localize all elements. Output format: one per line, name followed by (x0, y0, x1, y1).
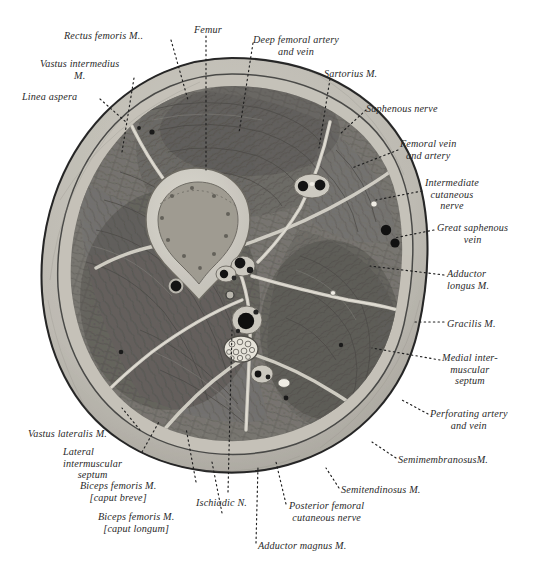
label-line: Vastus lateralis M. (28, 428, 107, 440)
label-line: Biceps femoris M. (80, 480, 156, 492)
label-emphasis: Rectus (64, 30, 95, 41)
label-line: and vein (253, 46, 339, 58)
label-line: Semitendinosus M. (341, 484, 421, 496)
label-rectus-femoris: Rectus femoris M.. (64, 30, 143, 42)
label-intermediate-cutaneous-nerve: Intermediatecutaneousnerve (425, 177, 479, 212)
label-gracilis: Gracilis M. (447, 318, 496, 330)
label-line: Saphenous nerve (366, 103, 438, 115)
label-line: Femoral vein (400, 138, 456, 150)
label-semimembranosus: SemimembranosusM. (398, 454, 488, 466)
label-line: cutaneous nerve (289, 512, 364, 524)
label-line: Adductor (447, 268, 489, 280)
label-line: Deep femoral artery (253, 34, 339, 46)
label-emphasis: Vastus (40, 58, 70, 69)
label-line: M. (40, 70, 119, 82)
label-line: [caput longum] (98, 523, 174, 535)
label-line: [caput breve] (80, 492, 156, 504)
label-biceps-femoris-longum: Biceps femoris M.[caput longum] (98, 511, 174, 534)
label-line: and vein (430, 420, 508, 432)
label-vastus-intermedius: Vastus intermediusM. (40, 58, 119, 81)
leader-semimembranosus (372, 442, 396, 458)
label-line: Linea aspera (22, 91, 77, 103)
label-perforating-artery-vein: Perforating arteryand vein (430, 408, 508, 431)
ischiadic-nerve-fascicles (224, 336, 258, 362)
label-saphenous-nerve: Saphenous nerve (366, 103, 438, 115)
label-emphasis: Deep (253, 34, 278, 45)
label-lateral-intermuscular-septum: Lateralintermuscularseptum (63, 446, 122, 481)
label-line: Gracilis M. (447, 318, 496, 330)
label-femur: Femur (194, 24, 222, 36)
label-line: cutaneous (425, 189, 479, 201)
label-line: intermuscular (63, 458, 122, 470)
label-line: Lateral (63, 446, 122, 458)
label-line: Perforating artery (430, 408, 508, 420)
label-line: Adductor magnus M. (258, 540, 346, 552)
label-line: Great saphenous (437, 222, 508, 234)
leader-semitendinosus (326, 468, 339, 488)
vessel-cluster-femoral (294, 174, 330, 198)
label-adductor-longus: Adductorlongus M. (447, 268, 489, 291)
label-line: Medial inter- (442, 352, 498, 364)
label-line: septum (442, 375, 498, 387)
leader-adductor-magnus (256, 466, 258, 543)
label-femoral-vein-artery: Femoral veinand artery (400, 138, 456, 161)
label-sartorius: Sartorius M. (324, 68, 377, 80)
label-vastus-lateralis: Vastus lateralis M. (28, 428, 107, 440)
label-great-saphenous-vein: Great saphenousvein (437, 222, 508, 245)
label-line: vein (437, 234, 508, 246)
label-line: SemimembranosusM. (398, 454, 488, 466)
label-adductor-magnus: Adductor magnus M. (258, 540, 346, 552)
label-line: and artery (400, 150, 456, 162)
leader-posterior-femoral (276, 462, 286, 504)
label-line: muscular (442, 364, 498, 376)
label-line: Rectus femoris M.. (64, 30, 143, 42)
label-ischiadic-nerve: Ischiadic N. (196, 497, 247, 509)
anatomical-figure: Rectus femoris M..FemurDeep femoral arte… (0, 0, 534, 565)
label-posterior-femoral-cutaneous-nerve: Posterior femoralcutaneous nerve (289, 500, 364, 523)
label-emphasis: Linea (22, 91, 49, 102)
label-line: nerve (425, 200, 479, 212)
vessel-cluster-perforating (232, 306, 262, 334)
label-line: Biceps femoris M. (98, 511, 174, 523)
label-medial-intermuscular-septum: Medial inter-muscularseptum (442, 352, 498, 387)
label-line: Ischiadic N. (196, 497, 247, 509)
label-linea-aspera: Linea aspera (22, 91, 77, 103)
label-line: Femur (194, 24, 222, 36)
label-line: Vastus intermedius (40, 58, 119, 70)
label-line: Sartorius M. (324, 68, 377, 80)
label-line: Posterior femoral (289, 500, 364, 512)
label-line: Intermediate (425, 177, 479, 189)
label-deep-femoral-artery-vein: Deep femoral arteryand vein (253, 34, 339, 57)
label-semitendinosus: Semitendinosus M. (341, 484, 421, 496)
leader-perforating (402, 400, 428, 414)
label-biceps-femoris-breve: Biceps femoris M.[caput breve] (80, 480, 156, 503)
label-line: longus M. (447, 280, 489, 292)
